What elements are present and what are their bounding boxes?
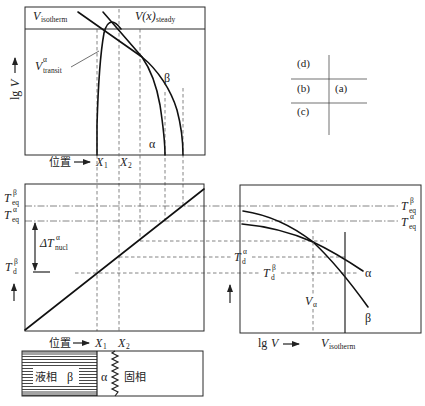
svg-text:transit: transit xyxy=(43,66,63,75)
svg-text:T: T xyxy=(234,250,242,264)
svg-text:d: d xyxy=(13,267,17,276)
alpha-solid-interface-zigzag xyxy=(112,351,118,396)
t-eq-alpha-label: T α eq xyxy=(4,205,19,224)
solid-phase-label: 固相 xyxy=(124,371,146,384)
key-label-c: (c) xyxy=(297,105,310,118)
key-label-d: (d) xyxy=(297,57,310,70)
delta-t-nucl-label: ΔT α nucl xyxy=(39,233,68,252)
svg-text:eq: eq xyxy=(12,215,19,224)
svg-text:1: 1 xyxy=(104,161,108,170)
svg-text:α: α xyxy=(243,247,247,256)
temperature-gradient-line xyxy=(25,189,204,330)
x1-label: X 1 xyxy=(95,155,108,170)
svg-text:α: α xyxy=(313,300,317,309)
t-eq-beta-label: T β eq xyxy=(4,188,19,207)
phase-selection-diagram: V isotherm V(x) steady V α transit β α l… xyxy=(0,0,425,406)
temperature-reference-lines xyxy=(25,206,398,273)
svg-text:V(x): V(x) xyxy=(135,9,156,23)
alpha-curve-label: α xyxy=(149,137,156,151)
panel-c-solidification-schematic: 液相 β α 固相 xyxy=(22,351,203,396)
svg-text:nucl: nucl xyxy=(55,243,68,252)
svg-text:X: X xyxy=(119,155,128,169)
x-axis-label: 位置 xyxy=(49,155,71,169)
svg-text:ΔT: ΔT xyxy=(39,236,55,250)
svg-text:lg: lg xyxy=(8,91,22,100)
alpha-phase-label: α xyxy=(101,370,108,384)
svg-text:T: T xyxy=(5,260,13,274)
beta-phase-label: β xyxy=(67,370,73,384)
panel-b-temperature-vs-position: T β eq T α eq ΔT α nucl T β d 位置 X 1 X xyxy=(4,184,204,351)
svg-text:2: 2 xyxy=(128,161,132,170)
beta-curve-label: β xyxy=(164,71,170,85)
svg-text:α: α xyxy=(56,233,60,242)
t-eq-beta-label: T β eq xyxy=(401,196,416,215)
key-label-b: (b) xyxy=(297,82,310,95)
svg-text:α: α xyxy=(43,55,47,64)
alpha-velocity-curve xyxy=(103,12,165,155)
svg-text:isotherm: isotherm xyxy=(329,342,355,351)
svg-text:X: X xyxy=(117,336,126,350)
svg-text:T: T xyxy=(263,266,271,280)
svg-text:V: V xyxy=(8,78,22,87)
svg-text:T: T xyxy=(401,199,409,213)
t-d-alpha-label: T α d xyxy=(234,247,247,266)
x-axis-label: 位置 xyxy=(49,336,71,350)
x2-label: X 2 xyxy=(119,155,132,170)
svg-text:β: β xyxy=(13,188,17,197)
svg-text:2: 2 xyxy=(126,342,130,351)
transit-label-pointer xyxy=(71,51,99,67)
svg-text:lg: lg xyxy=(258,336,267,350)
key-label-a: (a) xyxy=(335,82,348,95)
v-isotherm-label: V isotherm xyxy=(33,9,67,24)
v-steady-label: V(x) steady xyxy=(135,9,175,24)
svg-text:α: α xyxy=(13,205,17,214)
svg-text:1: 1 xyxy=(103,342,107,351)
svg-text:X: X xyxy=(95,155,104,169)
svg-text:eq: eq xyxy=(409,222,416,231)
svg-text:β: β xyxy=(14,257,18,266)
x2-label: X 2 xyxy=(117,336,130,351)
y-axis-label: lg V xyxy=(8,78,22,100)
t-d-beta-label: T β d xyxy=(263,263,276,282)
alpha-curve-label: α xyxy=(365,266,372,280)
svg-text:β: β xyxy=(272,263,276,272)
svg-text:α: α xyxy=(410,212,414,221)
panel-d-velocity-vs-position: V isotherm V(x) steady V α transit β α l… xyxy=(8,7,205,331)
svg-text:T: T xyxy=(4,191,12,205)
svg-text:β: β xyxy=(410,196,414,205)
svg-text:d: d xyxy=(242,257,246,266)
x-axis-label: lg V xyxy=(258,336,280,350)
t-d-beta-label: T β d xyxy=(5,257,18,276)
panel-a-temperature-vs-velocity: T β eq T α eq T α d T β d V α α β lg V xyxy=(230,185,421,351)
v-transit-label: V α transit xyxy=(35,55,63,75)
x1-label: X 1 xyxy=(94,336,107,351)
svg-text:T: T xyxy=(4,208,12,222)
svg-text:steady: steady xyxy=(156,15,175,24)
liquid-phase-label: 液相 xyxy=(35,370,57,384)
v-alpha-label: V α xyxy=(305,294,317,309)
svg-text:isotherm: isotherm xyxy=(41,15,67,24)
beta-temperature-curve xyxy=(243,211,368,307)
svg-text:T: T xyxy=(401,215,409,229)
layout-key-grid: (d) (b) (a) (c) xyxy=(291,55,367,135)
svg-text:d: d xyxy=(271,273,275,282)
svg-text:X: X xyxy=(94,336,103,350)
beta-curve-label: β xyxy=(365,311,371,325)
alpha-transit-curve xyxy=(97,22,121,155)
v-isotherm-label: V isotherm xyxy=(321,336,355,351)
svg-text:V: V xyxy=(271,336,280,350)
